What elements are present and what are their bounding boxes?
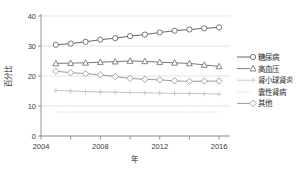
legend-label: 高血压 [258, 64, 280, 74]
legend-item-2[interactable]: 肾小球肾炎 [237, 75, 294, 85]
data-point-marker [157, 30, 162, 35]
data-point-marker [250, 66, 256, 72]
y-tick-label: 40 [28, 12, 36, 21]
data-point-marker [157, 77, 163, 83]
data-point-marker [250, 100, 256, 106]
legend-item-0[interactable]: 糖尿病 [237, 52, 280, 62]
series-line [56, 27, 219, 44]
legend-label: 其他 [258, 98, 273, 108]
data-point-marker [113, 36, 118, 41]
data-point-marker [187, 27, 192, 32]
data-point-marker [83, 39, 88, 44]
legend-item-4[interactable]: 其他 [237, 98, 273, 108]
x-tick-label: 2004 [33, 142, 50, 151]
gridlines [41, 16, 230, 136]
y-tick-label: 10 [28, 102, 36, 111]
data-point-marker [67, 70, 73, 76]
legend-label: 囊性肾病 [258, 87, 287, 97]
legend-label: 糖尿病 [258, 52, 280, 62]
data-point-marker [98, 37, 103, 42]
data-point-marker [216, 25, 221, 30]
line-chart: 0102030402004200820122016年百分比糖尿病高血压肾小球肾炎… [0, 0, 308, 177]
data-point-marker [142, 32, 147, 37]
data-point-marker [201, 78, 207, 84]
y-axis-title: 百分比 [3, 65, 13, 87]
y-tick-label: 20 [28, 72, 36, 81]
x-tick-label: 2016 [211, 142, 228, 151]
legend-item-3[interactable]: 囊性肾病 [237, 87, 287, 97]
data-point-marker [202, 26, 207, 31]
data-point-marker [142, 76, 148, 82]
data-point-marker [127, 34, 132, 39]
legend-label: 肾小球肾炎 [258, 75, 294, 85]
legend: 糖尿病高血压肾小球肾炎囊性肾病其他 [237, 52, 294, 108]
y-tick-label: 30 [28, 42, 36, 51]
series-1 [53, 58, 222, 69]
data-point-marker [172, 28, 177, 33]
y-axis: 010203040 [28, 12, 41, 141]
data-point-marker [171, 78, 177, 84]
data-point-marker [186, 78, 192, 84]
x-tick-label: 2008 [92, 142, 109, 151]
data-point-marker [250, 54, 255, 59]
data-point-marker [97, 72, 103, 78]
chart-canvas: 0102030402004200820122016年百分比糖尿病高血压肾小球肾炎… [0, 0, 308, 177]
data-point-marker [68, 41, 73, 46]
legend-item-1[interactable]: 高血压 [237, 64, 280, 74]
x-axis-title: 年 [131, 154, 139, 164]
x-tick-label: 2012 [151, 142, 168, 151]
series-line [56, 61, 219, 66]
series-0 [53, 25, 221, 48]
data-point-marker [53, 42, 58, 47]
series-2 [53, 88, 221, 97]
y-tick-label: 0 [32, 132, 36, 141]
x-axis: 2004200820122016 [33, 136, 230, 151]
y-axis-title-text: 百分比 [3, 65, 13, 87]
data-point-marker [112, 73, 118, 79]
data-point-marker [216, 78, 222, 84]
data-point-marker [53, 68, 59, 74]
series-line [56, 90, 219, 94]
